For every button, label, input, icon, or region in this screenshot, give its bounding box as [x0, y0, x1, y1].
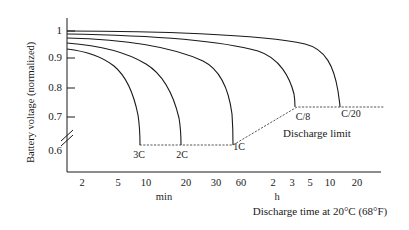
curve-label-1C: 1C: [228, 142, 250, 152]
y-tick-label-0.7: 0.7: [38, 111, 62, 122]
discharge-limit-annotation: Discharge limit: [283, 128, 351, 139]
x-tick-label-min-20: 20: [176, 178, 196, 189]
x-tick-label-min-2: 2: [72, 178, 92, 189]
curve-label-3C: 3C: [128, 150, 150, 160]
y-tick-label-1: 1: [38, 25, 62, 36]
x-tick-label-h-5: 5: [300, 178, 320, 189]
x-tick-label-h-20: 20: [347, 178, 367, 189]
y-tick-label-0.6: 0.6: [38, 145, 62, 156]
x-tick-label-h-3: 3: [282, 178, 302, 189]
curve-label-2C: 2C: [171, 150, 193, 160]
curve-C20: [67, 31, 340, 107]
chart-figure: Battery voltage (normalized) 1 0.9 0.8 0…: [0, 0, 409, 230]
x-tick-label-min-60: 60: [231, 178, 251, 189]
x-tick-label-min-10: 10: [136, 178, 156, 189]
y-tick-label-0.9: 0.9: [38, 52, 62, 63]
y-axis-label: Battery voltage (normalized): [26, 42, 37, 163]
curve-C8: [67, 34, 295, 107]
x-tick-label-min-5: 5: [108, 178, 128, 189]
curve-label-C20: C/20: [335, 109, 367, 119]
x-tick-label-min-30: 30: [206, 178, 226, 189]
y-tick-label-0.8: 0.8: [38, 82, 62, 93]
x-tick-label-h-2: 2: [263, 178, 283, 189]
curve-2C: [67, 43, 181, 145]
curve-3C: [67, 49, 140, 145]
x-axis-unit-min: min: [150, 192, 178, 203]
x-axis-unit-h: h: [268, 192, 286, 203]
chart-caption: Discharge time at 20°C (68°F): [240, 206, 400, 217]
x-tick-label-h-10: 10: [320, 178, 340, 189]
curve-label-C8: C/8: [290, 112, 316, 122]
